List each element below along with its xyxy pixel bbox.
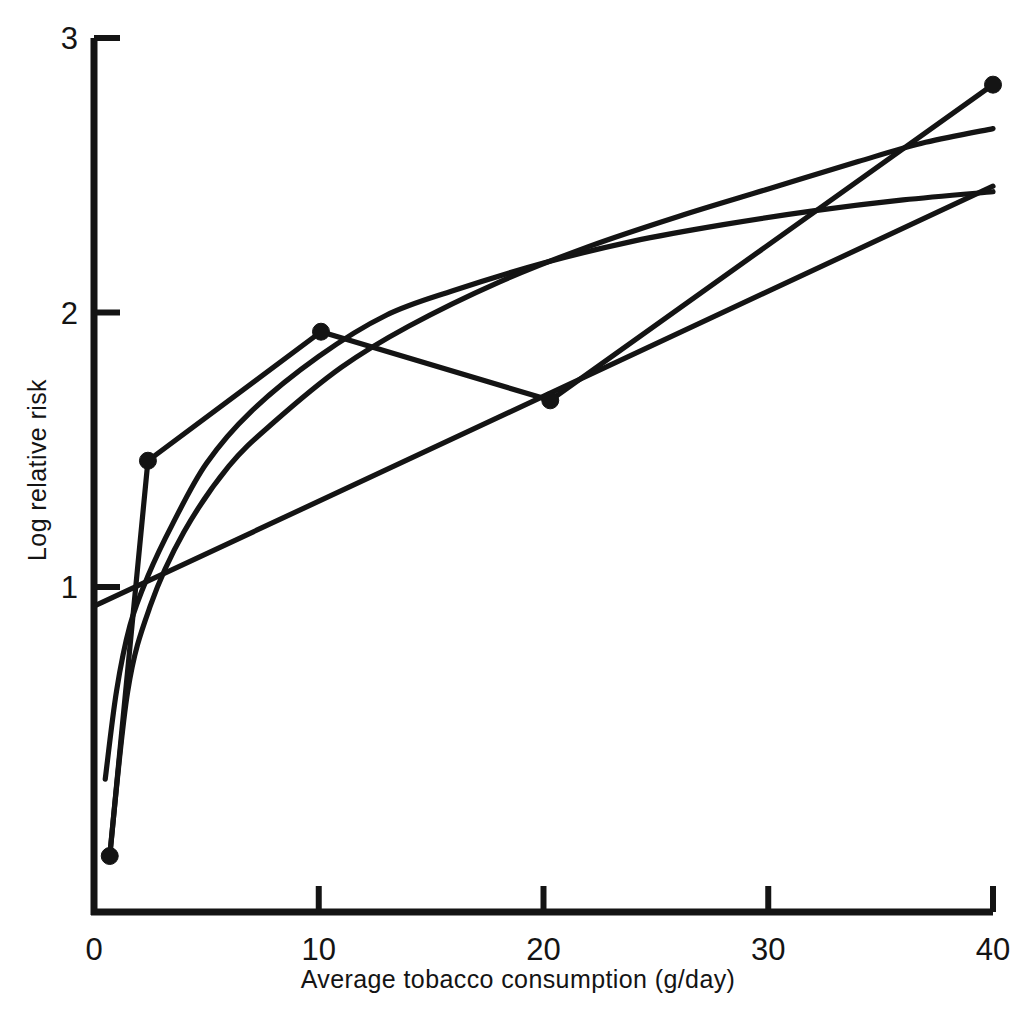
line-chart: 123 010203040 Average tobacco consumptio… (0, 0, 1036, 1019)
y-tick-label: 2 (61, 296, 78, 331)
y-axis-title: Log relative risk (23, 379, 51, 561)
y-tick-label: 3 (61, 21, 78, 56)
series-log-transformed-fit (105, 192, 993, 779)
data-point-marker (139, 452, 156, 469)
x-tick-label: 30 (751, 932, 785, 967)
series-power-transformed-fit (110, 129, 993, 856)
data-point-marker (985, 76, 1002, 93)
x-tick-label: 0 (85, 932, 102, 967)
data-point-marker (542, 392, 559, 409)
data-point-marker (101, 848, 118, 865)
x-tick-label: 10 (302, 932, 336, 967)
x-axis-tick-labels: 010203040 (85, 932, 1010, 967)
data-point-marker (312, 323, 329, 340)
x-axis-title: Average tobacco consumption (g/day) (301, 965, 736, 993)
series-layer (94, 85, 993, 856)
y-axis-ticks (94, 38, 120, 587)
x-tick-label: 40 (976, 932, 1010, 967)
x-tick-label: 20 (526, 932, 560, 967)
chart-container: 123 010203040 Average tobacco consumptio… (0, 0, 1036, 1019)
x-axis-ticks (319, 886, 993, 912)
y-axis-tick-labels: 123 (61, 21, 78, 605)
data-point-markers (101, 76, 1001, 864)
series-categorical-estimates (110, 85, 993, 856)
y-tick-label: 1 (61, 570, 78, 605)
